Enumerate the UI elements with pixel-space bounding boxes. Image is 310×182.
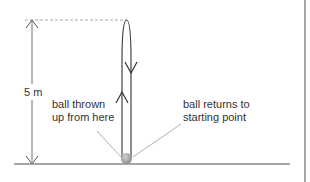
start-label: ball thrown up from here xyxy=(52,98,114,124)
return-label-line1: ball returns to xyxy=(183,98,250,111)
start-label-leader-line xyxy=(97,131,121,157)
return-label: ball returns to starting point xyxy=(183,98,250,124)
ball-throw-diagram xyxy=(0,0,310,182)
return-label-line2: starting point xyxy=(183,111,250,124)
ball-icon xyxy=(121,153,132,164)
start-label-line2: up from here xyxy=(52,111,114,124)
ball-trajectory-path xyxy=(122,20,131,158)
start-label-line1: ball thrown xyxy=(52,98,114,111)
height-label: 5 m xyxy=(23,86,43,99)
return-label-leader-line xyxy=(133,124,181,157)
